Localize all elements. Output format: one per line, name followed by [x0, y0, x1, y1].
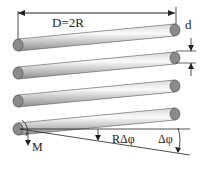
label-arc-displacement: RΔφ: [112, 133, 135, 145]
label-wire-diameter: d: [185, 18, 192, 31]
label-moment: M: [32, 141, 43, 153]
coil-4: [13, 108, 180, 135]
spring-diagram: D=2R d M RΔφ Δφ: [0, 0, 203, 169]
label-diameter: D=2R: [52, 16, 84, 29]
coil-2: [13, 52, 180, 79]
coil-1: [13, 24, 180, 51]
coil-3: [13, 80, 180, 107]
label-angle: Δφ: [158, 133, 173, 145]
